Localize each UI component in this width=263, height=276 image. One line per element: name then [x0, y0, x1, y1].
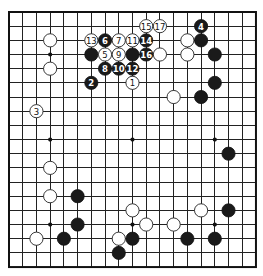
white-stone — [44, 190, 57, 203]
numbered-move-10: 10 — [112, 62, 125, 75]
numbered-move-12: 12 — [126, 62, 139, 75]
black-stone — [181, 232, 194, 245]
move-number-label: 3 — [34, 107, 39, 117]
white-stone — [167, 90, 180, 103]
black-stone — [208, 48, 221, 61]
star-point — [213, 137, 217, 141]
move-number-label: 16 — [140, 50, 152, 60]
numbered-move-1: 1 — [126, 76, 139, 89]
numbered-move-9: 9 — [112, 48, 125, 61]
move-number-label: 8 — [102, 64, 108, 74]
numbered-move-4: 4 — [194, 20, 207, 33]
white-stone — [126, 204, 139, 217]
move-number-label: 15 — [141, 22, 152, 32]
black-stone — [194, 90, 207, 103]
star-point — [48, 137, 52, 141]
black-stone — [126, 232, 139, 245]
white-stone — [140, 218, 153, 231]
white-stone — [181, 34, 194, 47]
black-stone — [194, 34, 207, 47]
move-number-label: 14 — [140, 36, 152, 46]
white-stone — [194, 204, 207, 217]
move-number-label: 10 — [113, 64, 125, 74]
go-board: 1234567891011121314151617 — [0, 0, 263, 276]
black-stone — [57, 232, 70, 245]
black-stone — [208, 232, 221, 245]
move-number-label: 5 — [102, 50, 107, 60]
move-number-label: 7 — [116, 36, 121, 46]
move-number-label: 17 — [155, 22, 166, 32]
move-number-label: 9 — [116, 50, 121, 60]
move-number-label: 12 — [127, 64, 139, 74]
white-stone — [44, 62, 57, 75]
black-stone — [222, 147, 235, 160]
star-point — [48, 52, 52, 56]
star-point — [48, 222, 52, 226]
star-point — [213, 222, 217, 226]
black-stone — [85, 48, 98, 61]
white-stone — [30, 232, 43, 245]
numbered-move-16: 16 — [140, 48, 153, 61]
black-stone — [71, 218, 84, 231]
black-stone — [126, 48, 139, 61]
numbered-move-14: 14 — [140, 34, 153, 47]
white-stone — [181, 48, 194, 61]
move-number-label: 4 — [198, 22, 204, 32]
white-stone — [167, 218, 180, 231]
numbered-move-5: 5 — [98, 48, 111, 61]
white-stone — [44, 34, 57, 47]
black-stone — [71, 190, 84, 203]
white-stone — [153, 48, 166, 61]
move-number-label: 6 — [102, 36, 108, 46]
white-stone — [112, 232, 125, 245]
numbered-move-17: 17 — [153, 20, 166, 33]
move-number-label: 11 — [127, 36, 138, 46]
star-point — [130, 137, 134, 141]
numbered-move-2: 2 — [85, 76, 98, 89]
black-stone — [222, 204, 235, 217]
black-stone — [208, 76, 221, 89]
move-number-label: 2 — [88, 78, 94, 88]
numbered-move-3: 3 — [30, 105, 43, 118]
numbered-move-8: 8 — [98, 62, 111, 75]
numbered-move-7: 7 — [112, 34, 125, 47]
numbered-move-6: 6 — [98, 34, 111, 47]
numbered-move-11: 11 — [126, 34, 139, 47]
black-stone — [112, 246, 125, 259]
star-point — [130, 222, 134, 226]
move-number-label: 1 — [130, 78, 135, 88]
white-stone — [44, 161, 57, 174]
numbered-move-15: 15 — [140, 20, 153, 33]
move-number-label: 13 — [86, 36, 97, 46]
numbered-move-13: 13 — [85, 34, 98, 47]
